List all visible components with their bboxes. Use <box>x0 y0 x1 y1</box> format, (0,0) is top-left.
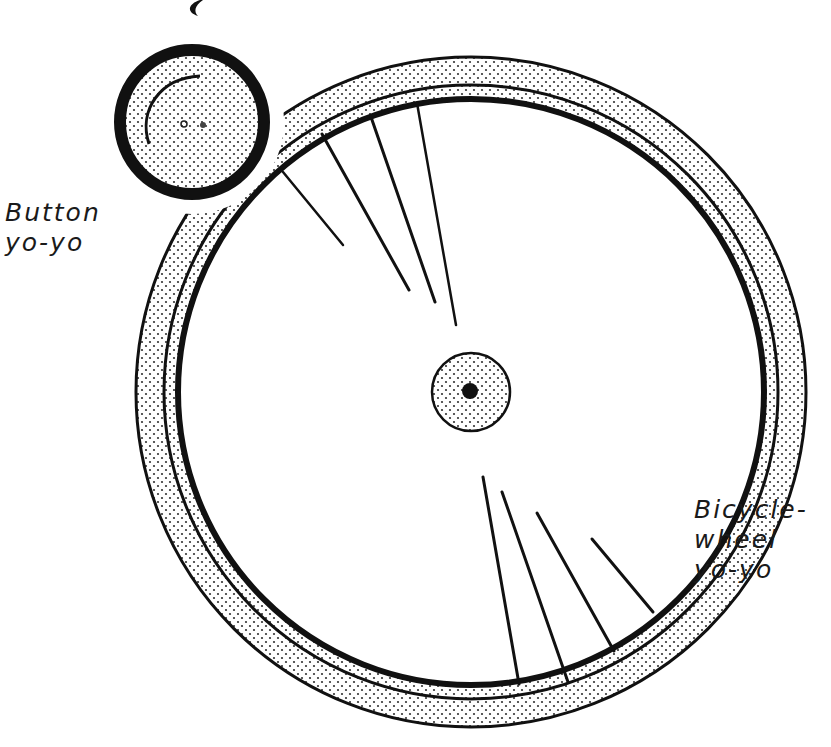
label-button-line1: Button <box>5 198 101 228</box>
button-yoyo <box>120 50 264 194</box>
curl-glyph <box>190 0 203 16</box>
yoyo-diagram <box>0 0 831 747</box>
label-wheel-line2: wheel <box>694 525 808 555</box>
hub-axle <box>462 383 478 399</box>
label-bicycle-wheel-yoyo: Bicycle- wheel yo-yo <box>694 495 808 585</box>
button-hole-right <box>200 122 206 128</box>
label-button-yoyo: Button yo-yo <box>5 198 101 258</box>
label-wheel-line1: Bicycle- <box>694 495 808 525</box>
label-button-line2: yo-yo <box>5 228 101 258</box>
wheel-hub <box>432 353 510 431</box>
label-wheel-line3: yo-yo <box>694 555 808 585</box>
